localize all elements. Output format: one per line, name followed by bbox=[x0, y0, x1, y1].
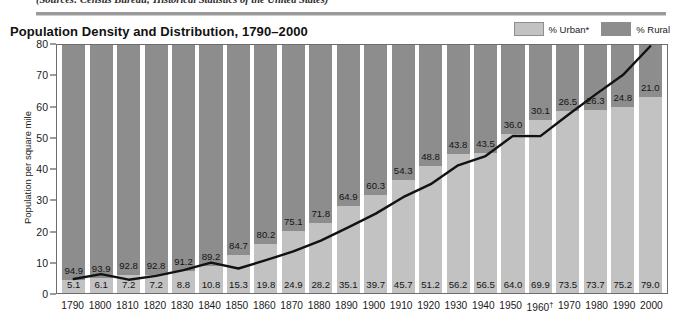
bar-column: 36.064.0 bbox=[501, 45, 524, 293]
bar-segment-rural: 92.8 bbox=[117, 45, 140, 275]
bar-value-rural: 26.3 bbox=[584, 95, 607, 106]
y-axis-tick-label: 40 bbox=[36, 163, 48, 175]
bar-value-rural: 36.0 bbox=[501, 119, 524, 130]
bar-segment-urban: 28.2 bbox=[309, 223, 332, 293]
bar-segment-urban: 6.1 bbox=[90, 278, 113, 293]
bar-segment-urban: 10.8 bbox=[199, 266, 222, 293]
bar-segment-urban: 7.2 bbox=[117, 275, 140, 293]
bar-segment-rural: 24.8 bbox=[611, 45, 634, 107]
bar-column: 21.079.0 bbox=[639, 45, 662, 293]
x-axis-tick-label: 1950 bbox=[499, 296, 522, 318]
x-axis-tick-label: 1810 bbox=[116, 296, 139, 318]
bar-segment-urban: 15.3 bbox=[227, 255, 250, 293]
bar-segment-urban: 73.7 bbox=[584, 110, 607, 293]
bar-value-rural: 92.8 bbox=[145, 260, 168, 271]
legend-label-urban: % Urban* bbox=[549, 24, 590, 35]
bar-value-urban: 39.7 bbox=[364, 279, 387, 290]
source-note-strip: (Sources: Census Bureau; Historical Stat… bbox=[0, 0, 674, 11]
bar-column: 48.851.2 bbox=[419, 45, 442, 293]
x-axis-tick-label: 1880 bbox=[308, 296, 331, 318]
bar-value-urban: 56.5 bbox=[474, 279, 497, 290]
bar-value-urban: 15.3 bbox=[227, 279, 250, 290]
bar-segment-urban: 19.8 bbox=[254, 244, 277, 293]
bar-segment-urban: 69.9 bbox=[529, 120, 552, 293]
bar-value-rural: 93.9 bbox=[90, 263, 113, 274]
x-axis-tick-label: 1900 bbox=[362, 296, 385, 318]
bar-value-urban: 64.0 bbox=[501, 279, 524, 290]
bar-value-urban: 28.2 bbox=[309, 279, 332, 290]
bar-value-rural: 30.1 bbox=[529, 105, 552, 116]
bar-value-urban: 69.9 bbox=[529, 279, 552, 290]
bar-segment-rural: 92.8 bbox=[145, 45, 168, 275]
bar-column: 91.28.8 bbox=[172, 45, 195, 293]
bar-segment-urban: 79.0 bbox=[639, 97, 662, 293]
y-axis-tick-label: 30 bbox=[36, 194, 48, 206]
x-axis-tick-label: 1940 bbox=[472, 296, 495, 318]
bar-value-rural: 21.0 bbox=[639, 82, 662, 93]
bar-value-rural: 43.5 bbox=[474, 138, 497, 149]
header-divider bbox=[36, 12, 666, 15]
x-axis-ticks: 1790180018101820183018401850186018701880… bbox=[56, 296, 668, 318]
bar-column: 54.345.7 bbox=[392, 45, 415, 293]
bar-column: 26.573.5 bbox=[556, 45, 579, 293]
y-axis-tick-label: 70 bbox=[36, 69, 48, 81]
x-axis-tick-label: 1830 bbox=[171, 296, 194, 318]
bar-column: 30.169.9 bbox=[529, 45, 552, 293]
bar-segment-urban: 51.2 bbox=[419, 166, 442, 293]
bar-segment-urban: 24.9 bbox=[282, 231, 305, 293]
bar-segment-urban: 5.1 bbox=[62, 280, 85, 293]
y-axis-ticks: 80706050403020100 bbox=[0, 44, 56, 294]
bar-segment-urban: 56.5 bbox=[474, 153, 497, 293]
bar-column: 89.210.8 bbox=[199, 45, 222, 293]
x-axis-tick-label: 1820 bbox=[143, 296, 166, 318]
bar-value-rural: 89.2 bbox=[199, 251, 222, 262]
bar-column: 75.124.9 bbox=[282, 45, 305, 293]
bar-column: 26.373.7 bbox=[584, 45, 607, 293]
x-axis-tick-label: 1930 bbox=[444, 296, 467, 318]
legend-label-rural: % Rural bbox=[636, 24, 670, 35]
bar-segment-rural: 89.2 bbox=[199, 45, 222, 266]
y-axis-tick-label: 60 bbox=[36, 101, 48, 113]
bar-segment-urban: 64.0 bbox=[501, 134, 524, 293]
bar-value-rural: 94.9 bbox=[62, 265, 85, 276]
chart-panel: 94.95.193.96.192.87.292.87.291.28.889.21… bbox=[56, 44, 668, 294]
bar-value-urban: 73.7 bbox=[584, 279, 607, 290]
bar-segment-rural: 43.8 bbox=[447, 45, 470, 154]
bar-value-urban: 19.8 bbox=[254, 279, 277, 290]
bar-value-rural: 92.8 bbox=[117, 260, 140, 271]
x-axis-tick-label: 1920 bbox=[417, 296, 440, 318]
bar-segment-rural: 84.7 bbox=[227, 45, 250, 255]
x-axis-tick-label: 1840 bbox=[198, 296, 221, 318]
legend-item-urban: % Urban* bbox=[514, 22, 590, 36]
bar-value-urban: 6.1 bbox=[90, 279, 113, 290]
bar-column: 92.87.2 bbox=[117, 45, 140, 293]
x-axis-tick-label: 1850 bbox=[225, 296, 248, 318]
bar-value-urban: 10.8 bbox=[199, 279, 222, 290]
bar-value-urban: 45.7 bbox=[392, 279, 415, 290]
bar-value-rural: 91.2 bbox=[172, 256, 195, 267]
bar-segment-urban: 35.1 bbox=[337, 206, 360, 293]
legend-item-rural: % Rural bbox=[601, 22, 670, 36]
y-axis-tick-label: 20 bbox=[36, 226, 48, 238]
bar-value-rural: 24.8 bbox=[611, 92, 634, 103]
bar-segment-urban: 56.2 bbox=[447, 154, 470, 293]
bar-value-urban: 73.5 bbox=[556, 279, 579, 290]
bar-value-urban: 24.9 bbox=[282, 279, 305, 290]
x-axis-tick-label: 1970 bbox=[558, 296, 581, 318]
bar-value-rural: 48.8 bbox=[419, 151, 442, 162]
bar-value-urban: 35.1 bbox=[337, 279, 360, 290]
bar-segment-rural: 71.8 bbox=[309, 45, 332, 223]
bar-column: 84.715.3 bbox=[227, 45, 250, 293]
bar-segment-urban: 39.7 bbox=[364, 195, 387, 293]
bar-segment-rural: 26.5 bbox=[556, 45, 579, 111]
x-axis-tick-label: 1990 bbox=[613, 296, 636, 318]
bar-value-rural: 71.8 bbox=[309, 208, 332, 219]
bar-value-rural: 80.2 bbox=[254, 229, 277, 240]
legend-swatch-urban bbox=[514, 22, 544, 36]
bar-segment-rural: 48.8 bbox=[419, 45, 442, 166]
y-axis-tick-label: 50 bbox=[36, 132, 48, 144]
x-axis-tick-label: 1890 bbox=[335, 296, 358, 318]
bar-segment-rural: 64.9 bbox=[337, 45, 360, 206]
x-axis-tick-label: 1960† bbox=[527, 296, 554, 318]
bar-segment-rural: 21.0 bbox=[639, 45, 662, 97]
